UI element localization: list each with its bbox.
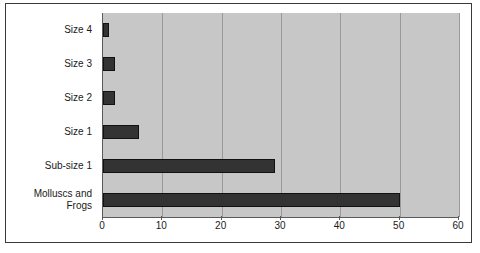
tick-label: 40 <box>334 220 345 231</box>
category-label: Size 4 <box>6 13 101 47</box>
tick-label: 60 <box>452 220 463 231</box>
tick-label: 50 <box>393 220 404 231</box>
category-label: Molluscs and Frogs <box>6 183 101 217</box>
category-label: Size 3 <box>6 47 101 81</box>
tick-label: 20 <box>215 220 226 231</box>
bars-layer <box>103 13 459 217</box>
tick-label: 30 <box>274 220 285 231</box>
bar-row <box>103 81 459 115</box>
value-axis: 0102030405060 <box>102 220 459 236</box>
category-label: Size 2 <box>6 81 101 115</box>
gridline <box>459 13 460 217</box>
bar[interactable] <box>103 57 115 71</box>
bar-row <box>103 13 459 47</box>
category-axis: Size 4Size 3Size 2Size 1Sub-size 1Mollus… <box>6 13 101 217</box>
tick-label: 0 <box>99 220 105 231</box>
bar-row <box>103 183 459 217</box>
bar[interactable] <box>103 159 275 173</box>
bar-row <box>103 47 459 81</box>
bar-row <box>103 115 459 149</box>
bar[interactable] <box>103 125 139 139</box>
plot-area <box>102 13 459 218</box>
tick-label: 10 <box>156 220 167 231</box>
bar-row <box>103 149 459 183</box>
chart-frame: Size 4Size 3Size 2Size 1Sub-size 1Mollus… <box>5 3 472 243</box>
category-label: Size 1 <box>6 115 101 149</box>
bar[interactable] <box>103 23 109 37</box>
bar[interactable] <box>103 193 400 207</box>
category-label: Sub-size 1 <box>6 149 101 183</box>
bar[interactable] <box>103 91 115 105</box>
